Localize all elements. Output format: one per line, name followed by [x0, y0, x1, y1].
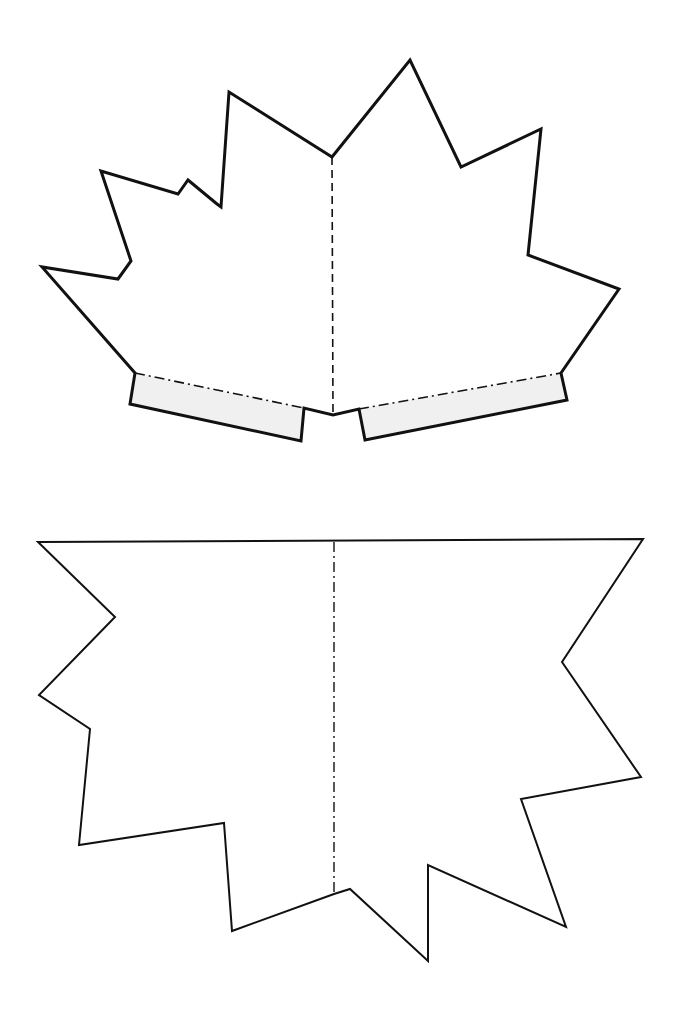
- bottom-leaf-piece: [38, 539, 643, 961]
- template-canvas: [0, 0, 686, 1016]
- top-leaf-piece: [42, 60, 619, 441]
- left-glue-tab: [130, 373, 304, 441]
- top-center-fold-line: [332, 157, 333, 414]
- bottom-leaf-outline: [38, 539, 643, 961]
